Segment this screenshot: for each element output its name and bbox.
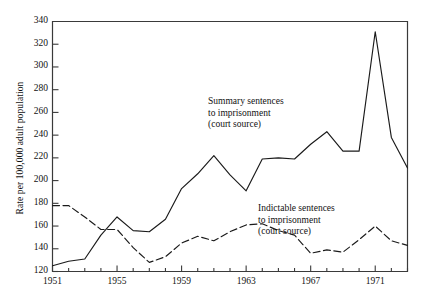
annotation-line: Indictable sentences: [258, 203, 335, 215]
annotation-line: (court source): [208, 119, 284, 131]
y-tick-label: 340: [18, 15, 48, 25]
annotation-line: to imprisonment: [258, 215, 335, 227]
series-line-summary: [53, 32, 408, 266]
y-tick-label: 120: [18, 265, 48, 275]
plot-frame: [53, 22, 408, 272]
annotation-summary: Summary sentencesto imprisonment(court s…: [208, 96, 284, 131]
y-tick-label: 160: [18, 220, 48, 230]
y-tick-label: 140: [18, 242, 48, 252]
x-tick-label: 1951: [33, 276, 73, 286]
series-line-indictable: [53, 206, 408, 263]
axis-ticks: [53, 44, 408, 271]
y-tick-label: 200: [18, 174, 48, 184]
annotation-line: (court source): [258, 226, 335, 238]
x-tick-label: 1959: [162, 276, 202, 286]
x-tick-label: 1955: [97, 276, 137, 286]
x-tick-label: 1963: [226, 276, 266, 286]
x-tick-label: 1971: [355, 276, 395, 286]
y-tick-label: 180: [18, 197, 48, 207]
y-tick-label: 260: [18, 106, 48, 116]
y-tick-label: 320: [18, 38, 48, 48]
chart-figure: Rate per 100,000 adult population 340320…: [0, 0, 423, 301]
x-tick-label: 1967: [291, 276, 331, 286]
plot-area: [0, 0, 423, 301]
annotation-line: to imprisonment: [208, 108, 284, 120]
y-tick-label: 280: [18, 83, 48, 93]
data-series-lines: [53, 32, 408, 266]
annotation-indictable: Indictable sentencesto imprisonment(cour…: [258, 203, 335, 238]
y-tick-label: 220: [18, 151, 48, 161]
y-tick-label: 300: [18, 60, 48, 70]
y-tick-label: 240: [18, 129, 48, 139]
axis-frame: [53, 22, 408, 272]
annotation-line: Summary sentences: [208, 96, 284, 108]
